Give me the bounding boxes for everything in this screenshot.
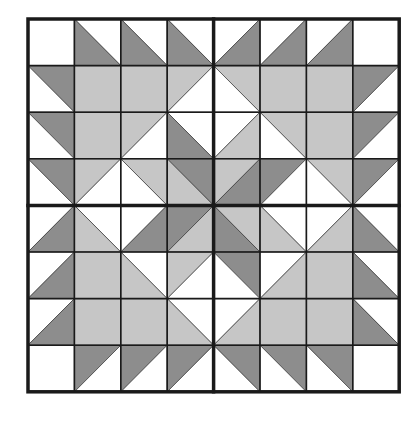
quilt-square bbox=[353, 345, 399, 392]
quilt-square bbox=[28, 19, 74, 66]
quilt-square bbox=[306, 112, 352, 159]
quilt-square bbox=[306, 299, 352, 346]
quilt-square bbox=[121, 299, 167, 346]
quilt-square bbox=[74, 299, 120, 346]
quilt-square bbox=[74, 252, 120, 299]
quilt-square bbox=[121, 66, 167, 113]
quilt-block-diagram bbox=[0, 0, 415, 430]
quilt-square bbox=[353, 19, 399, 66]
quilt-square bbox=[260, 66, 306, 113]
quilt-square bbox=[74, 112, 120, 159]
quilt-square bbox=[74, 66, 120, 113]
quilt-square bbox=[306, 66, 352, 113]
quilt-square bbox=[28, 345, 74, 392]
quilt-square bbox=[306, 252, 352, 299]
quilt-square bbox=[260, 299, 306, 346]
